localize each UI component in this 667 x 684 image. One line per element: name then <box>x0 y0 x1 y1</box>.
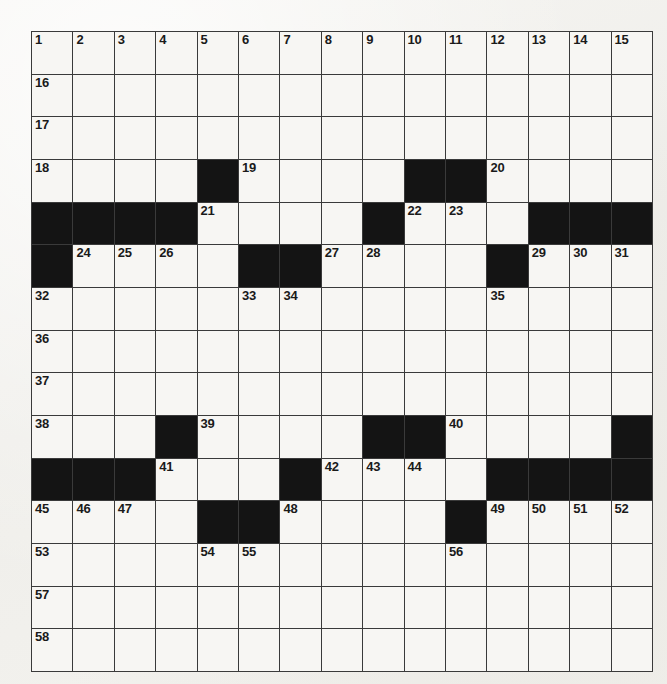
grid-letter-cell[interactable] <box>322 544 362 586</box>
grid-letter-cell[interactable]: 5 <box>198 32 238 74</box>
grid-letter-cell[interactable] <box>280 544 320 586</box>
grid-letter-cell[interactable] <box>363 587 403 629</box>
grid-letter-cell[interactable] <box>73 587 113 629</box>
grid-letter-cell[interactable] <box>322 160 362 202</box>
grid-letter-cell[interactable]: 21 <box>198 203 238 245</box>
grid-letter-cell[interactable]: 25 <box>115 245 155 287</box>
grid-letter-cell[interactable] <box>156 288 196 330</box>
grid-letter-cell[interactable] <box>363 331 403 373</box>
grid-letter-cell[interactable] <box>570 75 610 117</box>
grid-letter-cell[interactable] <box>198 373 238 415</box>
grid-letter-cell[interactable]: 3 <box>115 32 155 74</box>
grid-letter-cell[interactable] <box>73 629 113 671</box>
grid-letter-cell[interactable]: 20 <box>487 160 527 202</box>
grid-letter-cell[interactable]: 12 <box>487 32 527 74</box>
grid-letter-cell[interactable] <box>405 373 445 415</box>
grid-letter-cell[interactable]: 2 <box>73 32 113 74</box>
grid-letter-cell[interactable] <box>239 587 279 629</box>
grid-letter-cell[interactable] <box>446 245 486 287</box>
grid-letter-cell[interactable]: 1 <box>32 32 72 74</box>
grid-letter-cell[interactable] <box>446 75 486 117</box>
grid-letter-cell[interactable] <box>405 288 445 330</box>
grid-letter-cell[interactable] <box>612 288 652 330</box>
grid-letter-cell[interactable]: 49 <box>487 501 527 543</box>
grid-letter-cell[interactable]: 42 <box>322 459 362 501</box>
grid-letter-cell[interactable] <box>612 75 652 117</box>
grid-letter-cell[interactable] <box>487 587 527 629</box>
grid-letter-cell[interactable] <box>239 331 279 373</box>
grid-letter-cell[interactable] <box>198 288 238 330</box>
grid-letter-cell[interactable] <box>115 587 155 629</box>
grid-letter-cell[interactable]: 51 <box>570 501 610 543</box>
grid-letter-cell[interactable] <box>446 459 486 501</box>
grid-letter-cell[interactable] <box>322 117 362 159</box>
grid-letter-cell[interactable]: 4 <box>156 32 196 74</box>
grid-letter-cell[interactable] <box>570 331 610 373</box>
grid-letter-cell[interactable]: 37 <box>32 373 72 415</box>
grid-letter-cell[interactable]: 6 <box>239 32 279 74</box>
grid-letter-cell[interactable] <box>529 117 569 159</box>
grid-letter-cell[interactable] <box>115 544 155 586</box>
grid-letter-cell[interactable] <box>322 331 362 373</box>
grid-letter-cell[interactable]: 15 <box>612 32 652 74</box>
grid-letter-cell[interactable] <box>73 160 113 202</box>
grid-letter-cell[interactable] <box>363 75 403 117</box>
grid-letter-cell[interactable]: 11 <box>446 32 486 74</box>
grid-letter-cell[interactable] <box>405 629 445 671</box>
grid-letter-cell[interactable] <box>115 416 155 458</box>
grid-letter-cell[interactable] <box>570 587 610 629</box>
grid-letter-cell[interactable] <box>570 288 610 330</box>
grid-letter-cell[interactable] <box>322 75 362 117</box>
grid-letter-cell[interactable] <box>73 75 113 117</box>
grid-letter-cell[interactable] <box>198 587 238 629</box>
grid-letter-cell[interactable] <box>322 501 362 543</box>
grid-letter-cell[interactable] <box>487 416 527 458</box>
grid-letter-cell[interactable] <box>487 75 527 117</box>
grid-letter-cell[interactable]: 36 <box>32 331 72 373</box>
grid-letter-cell[interactable] <box>239 75 279 117</box>
grid-letter-cell[interactable] <box>239 117 279 159</box>
grid-letter-cell[interactable]: 27 <box>322 245 362 287</box>
grid-letter-cell[interactable] <box>405 544 445 586</box>
grid-letter-cell[interactable] <box>529 331 569 373</box>
grid-letter-cell[interactable] <box>115 331 155 373</box>
grid-letter-cell[interactable] <box>529 75 569 117</box>
grid-letter-cell[interactable] <box>115 288 155 330</box>
crossword-grid[interactable]: 1234567891011121314151617181920212223242… <box>31 31 653 672</box>
grid-letter-cell[interactable] <box>73 416 113 458</box>
grid-letter-cell[interactable]: 14 <box>570 32 610 74</box>
grid-letter-cell[interactable] <box>280 331 320 373</box>
grid-letter-cell[interactable]: 52 <box>612 501 652 543</box>
grid-letter-cell[interactable] <box>239 203 279 245</box>
grid-letter-cell[interactable]: 10 <box>405 32 445 74</box>
grid-letter-cell[interactable]: 18 <box>32 160 72 202</box>
grid-letter-cell[interactable] <box>115 629 155 671</box>
grid-letter-cell[interactable] <box>239 629 279 671</box>
grid-letter-cell[interactable] <box>322 416 362 458</box>
grid-letter-cell[interactable]: 43 <box>363 459 403 501</box>
grid-letter-cell[interactable] <box>363 629 403 671</box>
grid-letter-cell[interactable] <box>405 245 445 287</box>
grid-letter-cell[interactable] <box>280 117 320 159</box>
grid-letter-cell[interactable] <box>363 288 403 330</box>
grid-letter-cell[interactable] <box>363 117 403 159</box>
grid-letter-cell[interactable]: 45 <box>32 501 72 543</box>
grid-letter-cell[interactable] <box>570 629 610 671</box>
grid-letter-cell[interactable] <box>612 331 652 373</box>
grid-letter-cell[interactable] <box>73 544 113 586</box>
grid-letter-cell[interactable]: 9 <box>363 32 403 74</box>
grid-letter-cell[interactable] <box>570 416 610 458</box>
grid-letter-cell[interactable] <box>446 288 486 330</box>
grid-letter-cell[interactable] <box>612 587 652 629</box>
grid-letter-cell[interactable] <box>156 331 196 373</box>
grid-letter-cell[interactable] <box>239 459 279 501</box>
grid-letter-cell[interactable]: 50 <box>529 501 569 543</box>
grid-letter-cell[interactable] <box>156 501 196 543</box>
grid-letter-cell[interactable]: 30 <box>570 245 610 287</box>
grid-letter-cell[interactable] <box>446 629 486 671</box>
grid-letter-cell[interactable] <box>156 629 196 671</box>
grid-letter-cell[interactable] <box>322 203 362 245</box>
grid-letter-cell[interactable] <box>570 544 610 586</box>
grid-letter-cell[interactable]: 56 <box>446 544 486 586</box>
grid-letter-cell[interactable] <box>363 544 403 586</box>
